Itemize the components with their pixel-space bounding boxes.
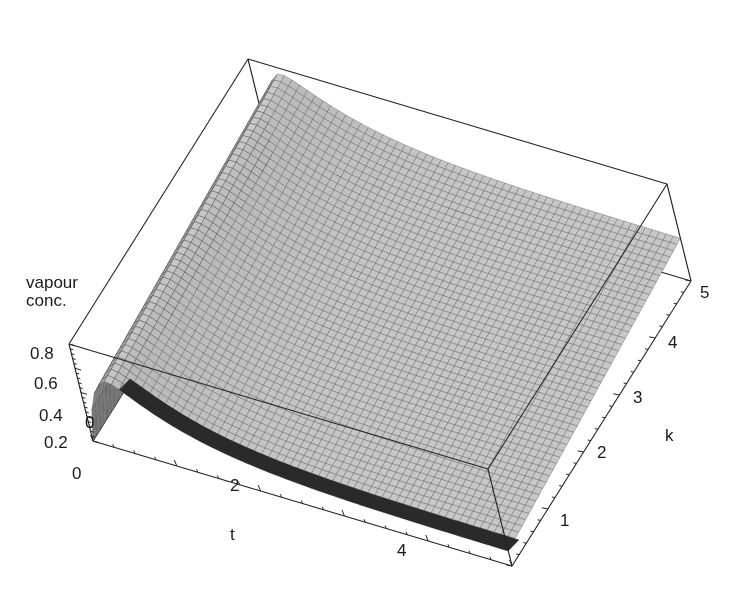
z-axis-label-line1: vapour — [26, 274, 78, 292]
t-tick-2: 2 — [230, 477, 239, 494]
t-axis-label: t — [230, 526, 235, 543]
z-tick-0.8: 0.8 — [30, 345, 54, 362]
z-tick-0.2: 0.2 — [44, 434, 68, 451]
k-tick-4: 4 — [668, 334, 677, 351]
z-tick-0.4: 0.4 — [39, 407, 63, 424]
k-tick-5: 5 — [700, 284, 709, 301]
k-axis-label: k — [665, 427, 674, 444]
k-tick-1: 1 — [560, 512, 569, 529]
surface-plot-canvas — [0, 0, 733, 594]
k-tick-3: 3 — [633, 389, 642, 406]
z-axis-label-line2: conc. — [26, 292, 78, 310]
z-tick-0: 0 — [72, 465, 81, 482]
t-tick-4: 4 — [397, 542, 406, 559]
k-tick-2: 2 — [597, 444, 606, 461]
t-tick-0: 0 — [85, 414, 94, 431]
z-axis-label: vapour conc. — [26, 274, 78, 310]
z-tick-0.6: 0.6 — [34, 375, 58, 392]
